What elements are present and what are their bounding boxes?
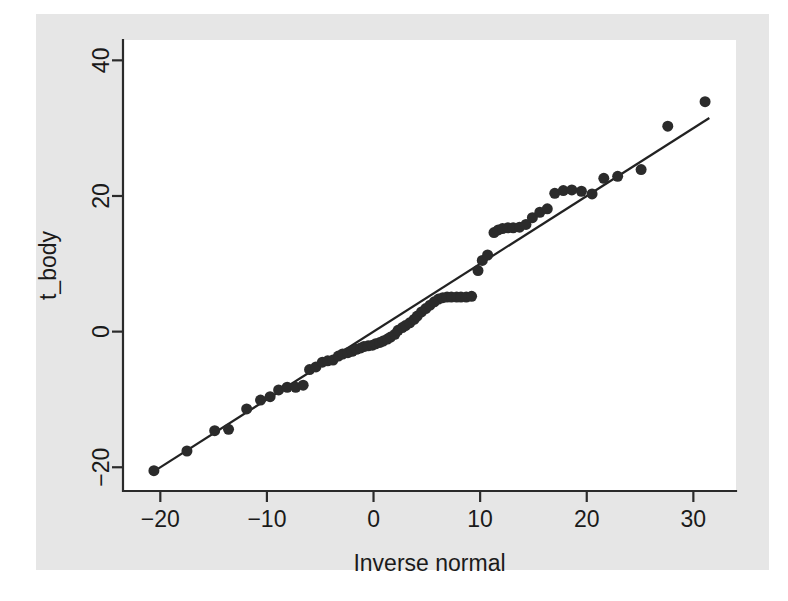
data-point	[181, 445, 192, 456]
x-axis-tick-label: 30	[681, 506, 707, 532]
data-point	[636, 164, 647, 175]
data-point	[223, 424, 234, 435]
x-axis-tick-label: 10	[467, 506, 493, 532]
data-point	[542, 203, 553, 214]
y-axis-tick-label: 40	[88, 48, 114, 74]
data-point	[265, 391, 276, 402]
data-point	[473, 265, 484, 276]
plot-area-background	[123, 40, 736, 491]
data-point	[598, 173, 609, 184]
y-axis-tick-label: 0	[88, 325, 114, 338]
data-point	[587, 188, 598, 199]
x-axis-tick-label: −10	[247, 506, 286, 532]
data-point	[298, 380, 309, 391]
data-point	[612, 171, 623, 182]
plot-area	[123, 40, 736, 491]
data-point	[209, 425, 220, 436]
data-point	[662, 121, 673, 132]
data-point	[700, 96, 711, 107]
x-axis-tick-label: 0	[367, 506, 380, 532]
data-point	[482, 249, 493, 260]
x-axis-tick-label: −20	[141, 506, 180, 532]
y-axis-tick-label: 20	[88, 183, 114, 209]
data-point	[466, 291, 477, 302]
data-point	[241, 403, 252, 414]
x-axis-title: Inverse normal	[353, 550, 505, 576]
y-axis-title: t_body	[35, 230, 61, 300]
data-point	[148, 465, 159, 476]
y-axis-tick-label: −20	[88, 448, 114, 487]
data-point	[576, 186, 587, 197]
data-point	[255, 395, 266, 406]
data-point	[566, 184, 577, 195]
qq-plot-svg: −20−100102030−2002040 Inverse normal t_b…	[0, 0, 788, 601]
x-axis-tick-label: 20	[574, 506, 600, 532]
figure-container: −20−100102030−2002040 Inverse normal t_b…	[0, 0, 788, 601]
